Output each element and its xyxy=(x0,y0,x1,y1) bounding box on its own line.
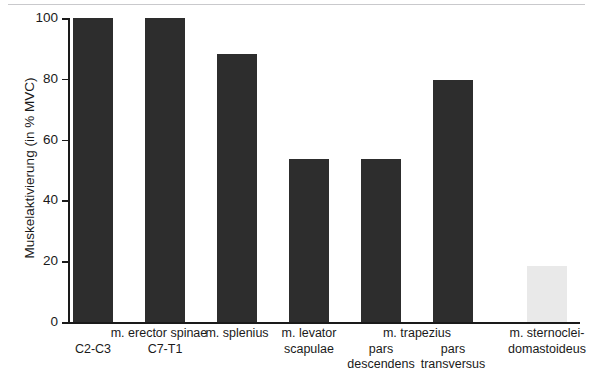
plot-area: Muskelaktivierung (in % MVC) 100 80 60 4… xyxy=(68,14,580,322)
bar-splenius xyxy=(217,54,257,322)
bar-erector-spinae-c2-c3 xyxy=(73,18,113,322)
y-axis-title: Muskelaktivierung (in % MVC) xyxy=(22,14,38,322)
y-tick-label: 80 xyxy=(43,72,58,86)
y-tick-mark xyxy=(62,322,68,324)
bar-series xyxy=(68,14,580,322)
category-label-trapezius-pars-transversus: pars transversus xyxy=(413,342,493,373)
category-label-trap-trans-line2: transversus xyxy=(413,357,493,373)
bar-levator-scapulae xyxy=(289,159,329,322)
category-label-trap-desc-line1: pars xyxy=(341,342,421,358)
category-label-c7-t1: C7-T1 xyxy=(125,342,205,358)
category-group-trapezius: m. trapezius xyxy=(357,326,477,342)
category-label-trap-desc-line2: descendens xyxy=(341,357,421,373)
bar-sternocleidomastoideus xyxy=(527,266,567,322)
y-tick-label: 40 xyxy=(43,194,58,208)
category-label-scm-line1: m. sternoclei- xyxy=(487,326,593,342)
y-tick-label: 20 xyxy=(43,254,58,268)
category-label-trap-trans-line1: pars xyxy=(413,342,493,358)
bar-erector-spinae-c7-t1 xyxy=(145,18,185,322)
y-tick-label: 100 xyxy=(35,11,58,25)
category-axis-labels: m. erector spinae C2-C3 C7-T1 m. spleniu… xyxy=(0,326,593,388)
y-tick-label: 60 xyxy=(43,133,58,147)
category-label-levator-line1: m. levator xyxy=(249,326,369,342)
bar-trapezius-pars-transversus xyxy=(433,80,473,322)
category-label-sternocleidomastoideus: m. sternoclei- domastoideus xyxy=(487,326,593,357)
top-divider-rule xyxy=(8,4,585,5)
bar-chart-figure: Muskelaktivierung (in % MVC) 100 80 60 4… xyxy=(0,0,593,391)
bar-trapezius-pars-descendens xyxy=(361,159,401,322)
category-label-c2-c3: C2-C3 xyxy=(53,342,133,358)
category-label-trapezius-pars-descendens: pars descendens xyxy=(341,342,421,373)
x-axis-line xyxy=(68,322,580,324)
category-label-scm-line2: domastoideus xyxy=(487,342,593,358)
